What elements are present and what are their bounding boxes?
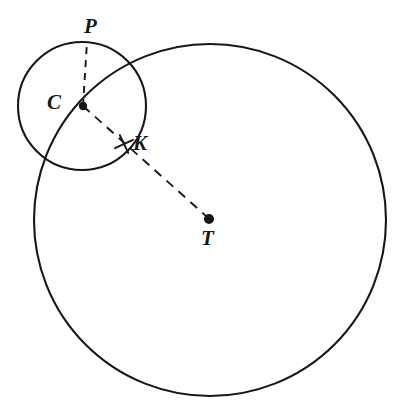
figure-canvas — [0, 0, 399, 409]
geometry-diagram: P C K T — [0, 0, 399, 409]
point-label-t: T — [201, 228, 214, 249]
point-label-c: C — [47, 92, 61, 113]
point-label-k: K — [133, 133, 147, 154]
point-dot-c — [79, 102, 87, 110]
point-dot-t — [204, 214, 214, 224]
point-label-p: P — [84, 16, 97, 37]
cross-tick-at-k — [115, 135, 133, 153]
